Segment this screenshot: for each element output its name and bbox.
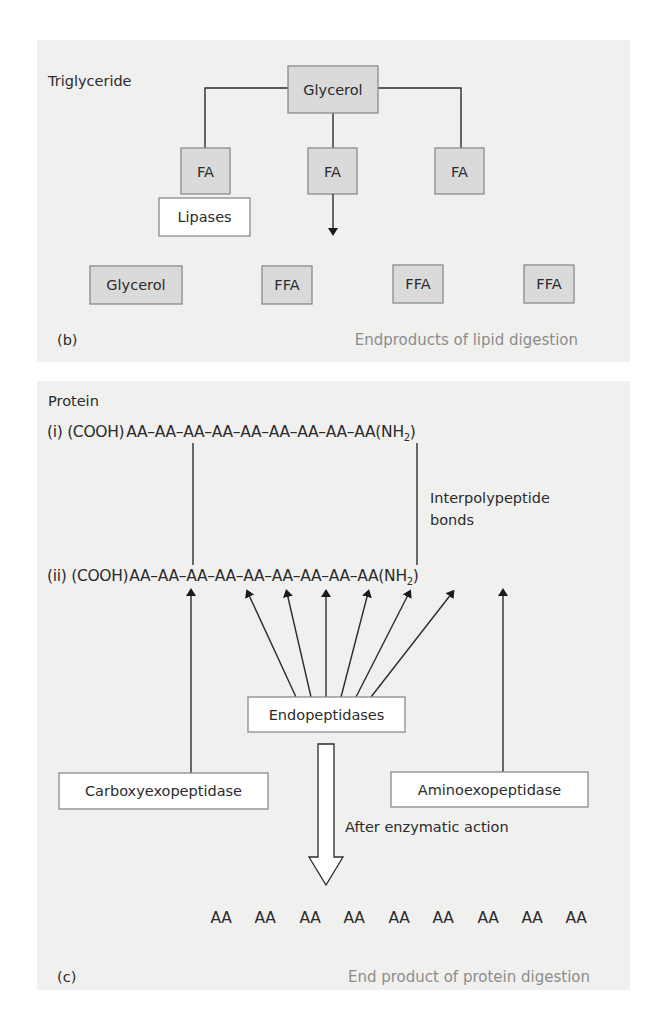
svg-text:AA: AA xyxy=(477,909,499,927)
interpolypeptide-label-line1: Interpolypeptide xyxy=(430,490,550,506)
panel-c-label: (c) xyxy=(57,969,76,985)
svg-text:Carboxyexopeptidase: Carboxyexopeptidase xyxy=(85,783,242,799)
carboxyexopeptidase-box: Carboxyexopeptidase xyxy=(59,773,268,809)
svg-text:AA: AA xyxy=(565,909,587,927)
aminoexopeptidase-box: Aminoexopeptidase xyxy=(391,772,588,807)
triglyceride-label: Triglyceride xyxy=(47,73,132,89)
lipid-caption: Endproducts of lipid digestion xyxy=(355,331,578,349)
svg-text:Glycerol: Glycerol xyxy=(106,277,165,293)
lipases-box: Lipases xyxy=(159,198,250,236)
chain-ii: (ii) (COOH)AA–AA–AA–AA–AA–AA–AA–AA–AA(NH… xyxy=(47,567,419,587)
svg-text:AA: AA xyxy=(254,909,276,927)
svg-text:AA: AA xyxy=(299,909,321,927)
bond-line-right xyxy=(378,88,461,148)
product-ffa-box-3: FFA xyxy=(524,265,574,303)
product-glycerol-box: Glycerol xyxy=(90,266,182,304)
svg-text:Glycerol: Glycerol xyxy=(303,82,362,98)
svg-text:FA: FA xyxy=(451,164,468,180)
protein-label: Protein xyxy=(48,393,99,409)
svg-text:Endopeptidases: Endopeptidases xyxy=(269,707,385,723)
svg-text:FA: FA xyxy=(197,164,214,180)
hollow-down-arrow-icon xyxy=(309,744,343,885)
svg-text:FFA: FFA xyxy=(405,276,430,292)
endopeptidase-arrows xyxy=(248,593,452,697)
interpolypeptide-label-line2: bonds xyxy=(430,512,474,528)
protein-caption: End product of protein digestion xyxy=(348,968,590,986)
chain-i: (i) (COOH)AA–AA–AA–AA–AA–AA–AA–AA–AA(NH2… xyxy=(47,423,416,443)
svg-text:Lipases: Lipases xyxy=(177,209,231,225)
svg-text:AA: AA xyxy=(388,909,410,927)
fatty-acid-box-1: FA xyxy=(181,148,230,194)
endopeptidases-box: Endopeptidases xyxy=(248,697,405,732)
svg-text:AA: AA xyxy=(343,909,365,927)
bond-line-left xyxy=(205,88,288,148)
svg-text:FFA: FFA xyxy=(274,277,299,293)
fatty-acid-box-2: FA xyxy=(308,148,357,194)
after-enzymatic-action-label: After enzymatic action xyxy=(345,819,509,835)
product-ffa-box-2: FFA xyxy=(393,265,443,303)
svg-text:AA: AA xyxy=(432,909,454,927)
product-ffa-box-1: FFA xyxy=(262,266,312,304)
free-amino-acids: AA AA AA AA AA AA AA AA AA xyxy=(210,909,587,927)
glycerol-box: Glycerol xyxy=(288,66,378,113)
svg-text:FFA: FFA xyxy=(536,276,561,292)
svg-text:Aminoexopeptidase: Aminoexopeptidase xyxy=(418,782,561,798)
svg-text:FA: FA xyxy=(324,164,341,180)
panel-b-label: (b) xyxy=(57,332,78,348)
svg-text:AA: AA xyxy=(521,909,543,927)
digestion-diagram: Triglyceride Glycerol FA FA FA Lipases G… xyxy=(0,0,655,1036)
svg-text:AA: AA xyxy=(210,909,232,927)
fatty-acid-box-3: FA xyxy=(435,148,484,194)
